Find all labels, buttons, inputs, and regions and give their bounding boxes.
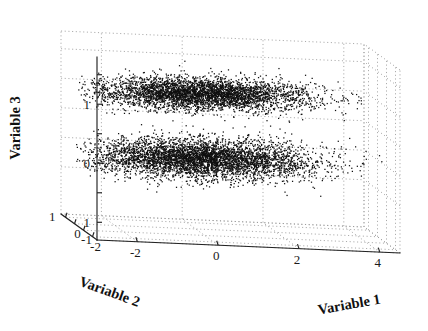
gridline	[364, 121, 400, 147]
y-tick-label: -2	[90, 239, 101, 254]
axis-line	[97, 240, 400, 253]
z-tick-label: 1	[84, 97, 91, 112]
gridline	[364, 227, 400, 253]
axis-labels-group: 1010-1-21-2024Variable 3Variable 2Variab…	[7, 96, 382, 317]
x-tick-mark	[136, 237, 138, 242]
x-tick-mark	[217, 241, 219, 246]
gridlines-group	[61, 31, 400, 253]
gridline	[61, 31, 364, 44]
y-tick-mark	[75, 219, 77, 224]
gridline	[66, 217, 369, 230]
y-axis-title: Variable 2	[77, 273, 142, 310]
x-tick-label: 2	[294, 252, 301, 267]
gridline	[263, 223, 299, 249]
x-tick-mark	[378, 248, 380, 253]
gridline	[61, 49, 364, 62]
gridline	[364, 150, 400, 176]
y-tick-label: 1	[49, 209, 56, 224]
gridline	[364, 62, 400, 88]
y-tick-mark	[93, 232, 95, 237]
x-tick-label: 4	[375, 255, 382, 270]
y-tick-mark	[66, 213, 68, 218]
gridline	[364, 91, 400, 117]
data-points-group	[76, 61, 382, 197]
z-tick-label: 1	[84, 215, 91, 230]
plot-canvas: 1010-1-21-2024Variable 3Variable 2Variab…	[0, 0, 428, 331]
x-tick-mark	[298, 244, 300, 249]
x-tick-label: -2	[130, 245, 141, 260]
y-tick-label: 0	[74, 226, 81, 241]
gridline	[75, 224, 378, 237]
scatter3d-figure: 1010-1-21-2024Variable 3Variable 2Variab…	[0, 0, 428, 331]
gridline	[364, 180, 400, 206]
z-tick-label: 0	[84, 156, 91, 171]
z-axis-title: Variable 3	[7, 96, 23, 160]
gridline	[61, 214, 364, 227]
x-tick-label: 0	[213, 248, 220, 263]
x-axis-title: Variable 1	[316, 291, 381, 318]
